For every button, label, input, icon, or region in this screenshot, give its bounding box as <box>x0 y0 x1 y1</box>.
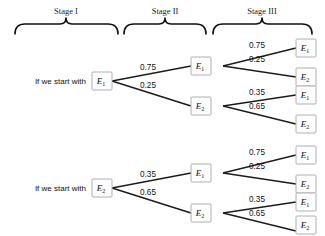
prob-e2-e2-e1: 0.35 <box>249 195 265 204</box>
prob-e2-to-e2: 0.65 <box>140 188 156 197</box>
stage-header-1: Stage I <box>15 6 118 34</box>
node-e1-e2-e2: E2 <box>296 115 316 133</box>
prompt-top-text: If we start with <box>35 77 86 86</box>
stage-1-brace <box>15 18 118 34</box>
node-e1-e1-e2: E2 <box>296 68 316 86</box>
prob-e2-to-e1: 0.35 <box>140 170 156 179</box>
prob-e1-to-e2: 0.25 <box>140 81 156 90</box>
stage-header-3: Stage III <box>213 6 312 34</box>
branch-e2-e1-e2-line <box>223 173 296 184</box>
node-e2-e2-e2: E2 <box>296 216 316 234</box>
stage-3-label: Stage III <box>247 6 277 16</box>
tree-from-e1: If we start with E1 E1 E2 E1 <box>35 39 316 133</box>
node-e2-e2-e1: E1 <box>296 193 316 211</box>
prompt-bottom-text: If we start with <box>35 184 86 193</box>
stage-2-brace <box>124 18 206 34</box>
node-root-e2: E2 <box>92 179 112 197</box>
node-e1-stage2-e1: E1 <box>191 57 211 75</box>
prob-e1-e1-e1: 0.75 <box>249 41 265 50</box>
node-e1-stage2-e2: E2 <box>191 97 211 115</box>
prob-e2-e2-e2: 0.65 <box>249 209 265 218</box>
node-e2-stage2-e1: E1 <box>191 164 211 182</box>
stage-3-brace <box>213 18 312 34</box>
prob-e1-e1-e2: 0.25 <box>249 55 265 64</box>
tree-from-e2: If we start with E2 E1 E2 E1 E2 <box>35 146 316 234</box>
node-e2-e1-e2: E2 <box>296 175 316 193</box>
stage-1-label: Stage I <box>54 6 78 16</box>
prob-e2-e1-e1: 0.75 <box>249 148 265 157</box>
tree-canvas: Stage I Stage II Stage III If we start w… <box>0 0 325 236</box>
prob-e1-e2-e2: 0.65 <box>249 102 265 111</box>
prob-e2-e1-e2: 0.25 <box>249 162 265 171</box>
stage-2-label: Stage II <box>152 6 179 16</box>
node-e2-e1-e1: E1 <box>296 146 316 164</box>
branch-e1-e1-e2-line <box>223 66 296 77</box>
node-e1-e1-e1: E1 <box>296 39 316 57</box>
stage-header-2: Stage II <box>124 6 206 34</box>
node-root-e1: E1 <box>92 72 112 90</box>
prob-e1-e2-e1: 0.35 <box>249 88 265 97</box>
node-e2-stage2-e2: E2 <box>191 204 211 222</box>
prob-e1-to-e1: 0.75 <box>140 63 156 72</box>
probability-tree-diagram: Stage I Stage II Stage III If we start w… <box>0 0 325 236</box>
node-e1-e2-e1: E1 <box>296 86 316 104</box>
